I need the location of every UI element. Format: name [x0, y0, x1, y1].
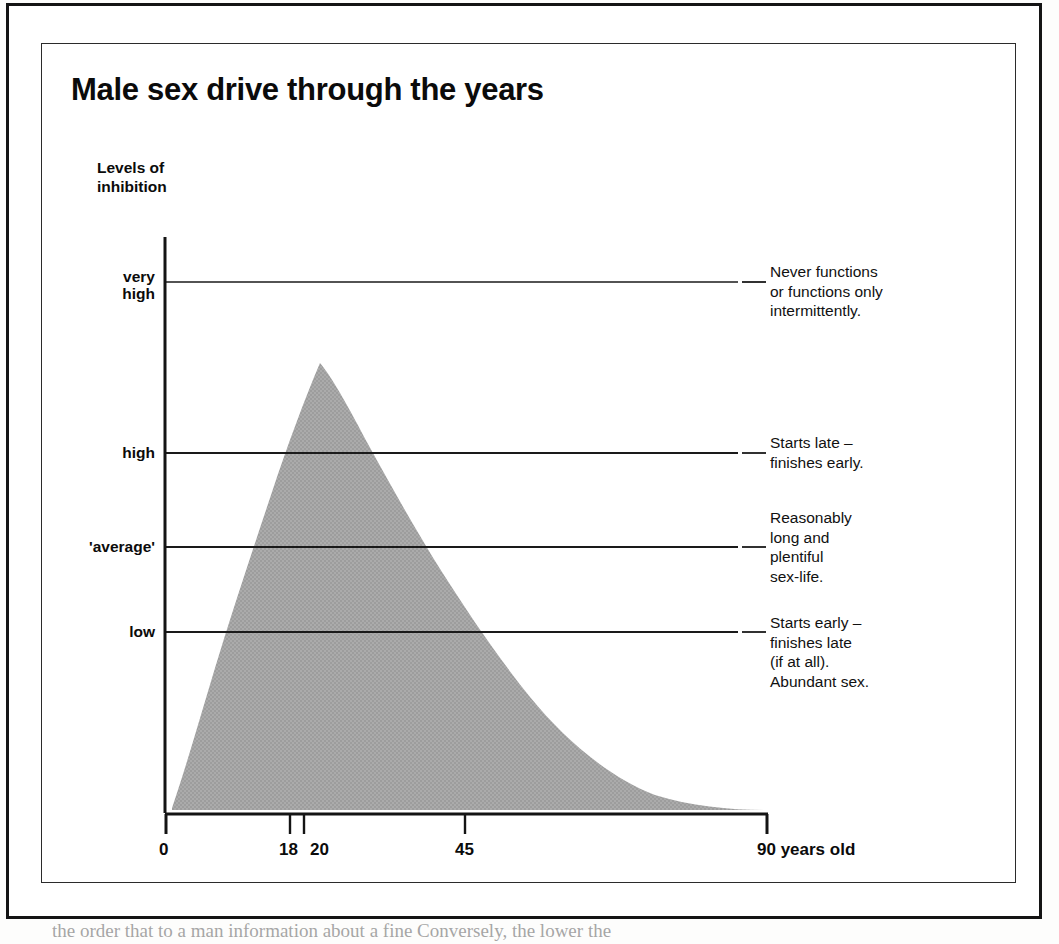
y-tick-label-average: 'average' [35, 538, 155, 555]
x-tick-label-0: 0 [159, 840, 168, 860]
x-tick-label-20: 20 [310, 840, 329, 860]
scanned-page: Male sex drive through the years Levels … [0, 0, 1059, 944]
clipped-body-caption: the order that to a man information abou… [52, 921, 692, 943]
y-tick-label-low: low [55, 623, 155, 640]
y-tick-label-very-high: very high [55, 268, 155, 302]
x-tick-label-90: 90 years old [757, 840, 855, 860]
y-tick-label-high: high [55, 444, 155, 461]
x-tick-label-18: 18 [279, 840, 298, 860]
annotation-low: Starts early – finishes late (if at all)… [770, 613, 1005, 691]
annotation-high: Starts late – finishes early. [770, 433, 1005, 472]
x-tick-label-45: 45 [455, 840, 474, 860]
y-axis-title: Levels of inhibition [97, 158, 167, 196]
annotation-very-high: Never functions or functions only interm… [770, 262, 1005, 321]
annotation-average: Reasonably long and plentiful sex-life. [770, 508, 1005, 586]
page-title: Male sex drive through the years [71, 72, 544, 108]
